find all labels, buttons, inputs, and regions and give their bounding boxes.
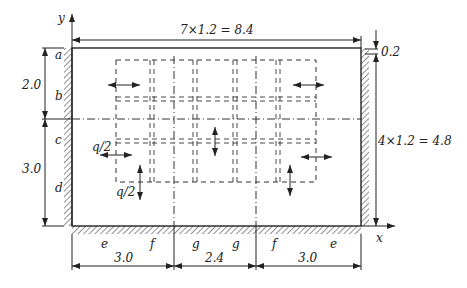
- top-dimension-label: 7×1.2 = 8.4: [180, 23, 254, 37]
- wall-label-f2: f: [271, 237, 279, 251]
- wall-label-g2: g: [232, 237, 240, 251]
- load-arrows: [100, 85, 332, 200]
- bottom-wall: [72, 226, 361, 234]
- wall-label-g1: g: [192, 237, 200, 251]
- plate-outline: [72, 48, 361, 226]
- x-axis-label: x: [376, 231, 383, 245]
- right-wall: [361, 48, 369, 226]
- left-upper-dimension-label: 2.0: [21, 78, 41, 92]
- wall-label-e1: e: [101, 237, 108, 251]
- left-wall: [64, 48, 72, 226]
- wall-label-f1: f: [149, 237, 157, 251]
- bottom-dimension-2: 2.4: [204, 251, 224, 265]
- wall-label-b: b: [55, 89, 63, 103]
- plate-diagram: y x 7×1.2 = 8.4 0.2 4×1.2 = 4.8 2.0 3.0 …: [0, 0, 467, 288]
- horizontal-load-label: q/2: [92, 140, 111, 154]
- right-small-dimension-label: 0.2: [381, 45, 400, 59]
- right-dimension-label: 4×1.2 = 4.8: [377, 134, 452, 148]
- left-lower-dimension-label: 3.0: [22, 162, 41, 176]
- wall-label-c: c: [55, 133, 62, 147]
- bottom-dimension-1: 3.0: [114, 251, 133, 265]
- wall-label-e2: e: [330, 237, 337, 251]
- y-axis-label: y: [57, 11, 65, 25]
- wall-label-a: a: [55, 48, 62, 62]
- wall-label-d: d: [55, 181, 63, 195]
- bottom-dimension-3: 3.0: [298, 251, 317, 265]
- dashed-cell-grid: [116, 60, 316, 182]
- vertical-load-label: q/2: [116, 185, 135, 199]
